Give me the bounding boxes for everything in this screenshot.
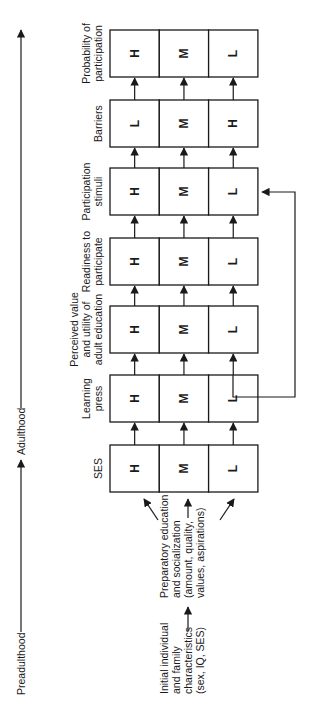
stage-cell-level: M <box>177 394 191 404</box>
stage-perceived-value: Perceived valueand utility ofadult educa… <box>68 286 258 367</box>
stage-cell-level: H <box>128 325 142 334</box>
initial-line-1: Initial individual <box>158 623 170 694</box>
timeline-start-label: Preadulthood <box>15 632 27 695</box>
stage-title: Participation <box>80 162 92 220</box>
feedback-arrow-learning-press-to-stimuli <box>233 192 295 397</box>
initial-line-2: and family <box>170 645 182 694</box>
preparatory-line-4: values, aspirations) <box>194 508 206 598</box>
stage-participation-stimuli: ParticipationstimuliHML <box>80 148 258 220</box>
arrow-preparatory-to-ses-low <box>220 499 234 520</box>
stage-barriers: BarriersLMH <box>92 78 258 147</box>
stage-title: Barriers <box>92 105 104 142</box>
stage-cell-level: H <box>226 119 240 128</box>
preparatory-line-3: (amount, quality, <box>182 521 194 598</box>
stage-cell-level: H <box>128 49 142 58</box>
stage-cell-level: M <box>177 49 191 59</box>
stage-cell-level: H <box>128 187 142 196</box>
stage-cell-level: L <box>226 465 240 472</box>
stage-cell-level: L <box>226 258 240 265</box>
stage-title: Learning <box>80 378 92 419</box>
stage-cell-level: M <box>177 464 191 474</box>
stage-title: stimuli <box>92 177 104 207</box>
stage-title: Perceived value <box>68 292 80 367</box>
preparatory-line-1: Preparatory education <box>158 495 170 598</box>
stage-learning-press: LearningpressHML <box>80 354 258 422</box>
timeline-mid-label: Adulthood <box>15 408 27 455</box>
arrow-preparatory-to-ses-high <box>144 499 158 520</box>
stage-cell-level: H <box>128 257 142 266</box>
stage-ses: SESHML <box>92 423 258 492</box>
timeline: Preadulthood Adulthood <box>15 30 27 695</box>
adult-education-participation-model: Preadulthood Adulthood Initial individua… <box>0 0 312 728</box>
diagram-stage: Preadulthood Adulthood Initial individua… <box>0 0 312 728</box>
initial-line-4: (sex, IQ, SES) <box>194 627 206 694</box>
stage-cell-level: H <box>128 464 142 473</box>
stage-cell-level: M <box>177 325 191 335</box>
stage-cell-level: M <box>177 119 191 129</box>
preparatory-line-2: and socialization <box>170 520 182 598</box>
stage-title: participate <box>92 237 104 286</box>
stage-title: press <box>92 386 104 412</box>
stage-title: Probability of <box>80 23 92 84</box>
stage-title: adult education <box>92 294 104 365</box>
stage-cell-level: H <box>128 394 142 403</box>
stage-probability: Probability ofparticipationHML <box>80 23 258 84</box>
stage-cell-level: M <box>177 257 191 267</box>
stage-cell-level: L <box>128 120 142 127</box>
stage-cell-level: L <box>226 188 240 195</box>
input-initial-characteristics: Initial individual and family characteri… <box>158 623 206 694</box>
stage-cell-level: L <box>226 50 240 57</box>
stage-readiness: Readiness toparticipateHML <box>80 216 258 292</box>
initial-line-3: characteristics <box>182 627 194 694</box>
stage-cell-level: M <box>177 187 191 197</box>
stage-title: Readiness to <box>80 231 92 292</box>
stage-title: and utility of <box>80 301 92 357</box>
stage-boxes: SESHMLLearningpressHMLPerceived valueand… <box>68 23 258 492</box>
stage-cell-level: L <box>226 326 240 333</box>
stage-title: SES <box>92 458 104 479</box>
diagram-canvas: Preadulthood Adulthood Initial individua… <box>0 0 312 728</box>
input-preparatory-education: Preparatory education and socialization … <box>158 495 206 598</box>
stage-title: participation <box>92 25 104 82</box>
